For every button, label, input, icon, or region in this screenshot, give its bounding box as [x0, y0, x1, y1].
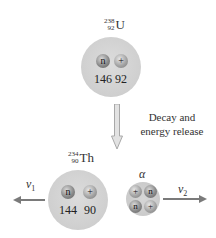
proton-glyph: + [87, 187, 93, 197]
decay-caption-line2: energy release [128, 124, 216, 138]
alpha-proton-icon: + [129, 185, 142, 198]
alpha-neutron-icon: n [144, 185, 157, 198]
neutron-glyph: n [148, 187, 153, 196]
parent-isotope-label: 238 92 U [104, 17, 125, 33]
neutron-glyph: n [101, 56, 106, 66]
proton-glyph: + [148, 202, 153, 211]
alpha-neutron-icon: n [129, 200, 142, 213]
daughter-isotope-label: 234 90 Th [68, 150, 94, 166]
daughter-neutron-count: 144 [56, 203, 80, 218]
daughter-proton-count: 90 [78, 203, 102, 218]
alpha-particle: + n n + [126, 182, 160, 216]
neutron-glyph: n [66, 187, 71, 197]
daughter-neutron-icon: n [61, 185, 75, 199]
decay-caption: Decay and energy release [128, 110, 216, 138]
alpha-proton-icon: + [144, 200, 157, 213]
proton-glyph: + [118, 56, 124, 66]
parent-nucleus: n + 146 92 [81, 37, 141, 97]
proton-glyph: + [133, 187, 138, 196]
alpha-label: α [139, 167, 145, 182]
parent-symbol: U [116, 17, 125, 33]
daughter-proton-icon: + [83, 185, 97, 199]
daughter-isotope-numbers: 234 90 [68, 151, 79, 165]
parent-isotope-numbers: 238 92 [104, 18, 115, 32]
daughter-velocity-label: v1 [26, 177, 35, 193]
parent-proton-icon: + [114, 54, 128, 68]
alpha-velocity-label: v2 [178, 182, 187, 198]
neutron-glyph: n [133, 202, 138, 211]
parent-atomic-number: 92 [108, 25, 115, 32]
daughter-nucleus: n + 144 90 [48, 170, 108, 230]
decay-down-arrow-icon [111, 104, 123, 150]
daughter-atomic-number: 90 [72, 158, 79, 165]
decay-caption-line1: Decay and [128, 110, 216, 124]
daughter-velocity-arrow-line [20, 199, 45, 201]
velocity-subscript: 1 [31, 184, 35, 193]
alpha-velocity-arrow-line [163, 198, 200, 200]
parent-neutron-icon: n [96, 54, 110, 68]
parent-proton-count: 92 [109, 72, 133, 87]
daughter-symbol: Th [80, 150, 94, 166]
alpha-velocity-arrowhead-icon [199, 195, 207, 203]
